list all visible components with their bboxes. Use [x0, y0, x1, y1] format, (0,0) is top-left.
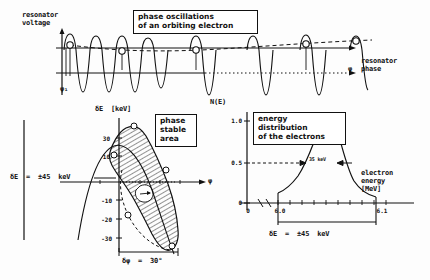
left-ytick-0: 30 [103, 135, 111, 142]
phase-marker-label: φ₁ [60, 86, 68, 94]
phase-stable-area-box: phase stable area [155, 114, 197, 147]
left-panel-y-axis-label: δE [keV] [95, 106, 131, 114]
resonator-voltage-label: resonator voltage [22, 12, 58, 28]
right-ytick-2: 0 [238, 199, 242, 206]
figure-vector-layer: 30 10 -10 -20 -30 1.0 0.5 0 0 6.0 6.1 [0, 0, 430, 280]
left-phase-symbol: φ [208, 178, 212, 186]
left-ytick-4: -30 [101, 235, 112, 242]
fwhm-indicator [252, 161, 352, 166]
resonator-phase-label: resonator phase [361, 58, 397, 74]
right-ytick-1: 0.5 [231, 159, 242, 166]
right-ytick-0: 1.0 [231, 117, 242, 124]
left-ytick-1: 10 [103, 153, 111, 160]
left-energy-spread-label: δE = ±45 keV [10, 174, 70, 182]
resonator-voltage-curve [64, 34, 368, 95]
right-xtick-1: 6.0 [275, 207, 286, 214]
right-energy-spread-label: δE = ±45 keV [269, 231, 329, 239]
title-box-phase-oscillations: phase oscillations of an orbiting electr… [133, 10, 258, 34]
scientific-figure: 30 10 -10 -20 -30 1.0 0.5 0 0 6.0 6.1 ph… [0, 0, 430, 280]
top-phase-symbol: φ [348, 66, 352, 74]
phase-spread-label: δφ = 30° [122, 258, 162, 266]
fwhm-label: 35 keV [309, 157, 326, 163]
left-ytick-2: -10 [101, 197, 112, 204]
left-ytick-3: -20 [101, 216, 112, 223]
phase-drift-envelope [70, 40, 372, 51]
right-xtick-2: 6.1 [377, 207, 388, 214]
energy-distribution-box: energy distribution of the electrons [253, 112, 346, 145]
right-xtick-0: 0 [246, 207, 250, 214]
electron-phase-markers [67, 38, 359, 54]
right-panel-y-axis-label: N(E) [210, 99, 226, 107]
electron-energy-label: electron energy [MeV] [361, 170, 393, 193]
distribution-limits [278, 193, 376, 225]
